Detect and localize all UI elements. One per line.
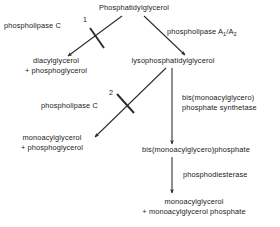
enzyme-phospholipase-a1-a2: phospholipase A1/A2 xyxy=(167,27,277,37)
pathway-diagram: Phosphatidylglycerol phospholipase C 1 p… xyxy=(0,0,280,227)
step-marker-1-label: 1 xyxy=(83,15,87,24)
node-phosphatidylglycerol: Phosphatidylglycerol xyxy=(74,3,194,13)
enzyme-phospholipase-a1-a2-prefix: phospholipase A xyxy=(167,27,223,36)
node-lysophosphatidylglycerol: lysophosphatidylglycerol xyxy=(108,56,238,66)
enzyme-bmp-synthetase: bis(monoacylglycero) phosphate synthetas… xyxy=(182,93,278,113)
enzyme-phospholipase-c-2-label: phospholipase C xyxy=(41,101,98,110)
step-marker-2-label: 2 xyxy=(109,88,113,97)
enzyme-phospholipase-c-1-label: phospholipase C xyxy=(4,21,61,30)
enzyme-phosphodiesterase: phosphodiesterase xyxy=(183,170,275,180)
node-phosphatidylglycerol-label: Phosphatidylglycerol xyxy=(99,3,169,12)
node-final-products-line1: monoacylglycerol xyxy=(112,197,276,207)
enzyme-phospholipase-a1-a2-separator: /A xyxy=(226,27,233,36)
enzyme-phospholipase-c-2: phospholipase C xyxy=(41,101,121,111)
node-monoacylglycerol-phosphoglycerol: monoacylglycerol + phosphoglycerol xyxy=(0,133,104,153)
node-final-products-line2: + monoacylglycerol phosphate xyxy=(112,207,276,217)
enzyme-phospholipase-a2-subscript: 2 xyxy=(234,31,237,37)
node-monoacylglycerol-phosphoglycerol-line1: monoacylglycerol xyxy=(0,133,104,143)
step-marker-2: 2 xyxy=(109,88,113,98)
enzyme-phospholipase-c-1: phospholipase C xyxy=(4,21,82,31)
node-diacylglycerol: diacylglycerol + phosphoglycerol xyxy=(2,56,110,76)
node-bis-monoacylglycerophosphate: bis(monoacylglycero)phosphate xyxy=(116,145,276,155)
node-final-products: monoacylglycerol + monoacylglycerol phos… xyxy=(112,197,276,217)
enzyme-bmp-synthetase-line2: phosphate synthetase xyxy=(182,103,278,113)
node-monoacylglycerol-phosphoglycerol-line2: + phosphoglycerol xyxy=(0,143,104,153)
step-marker-1: 1 xyxy=(83,15,87,25)
node-bis-monoacylglycerophosphate-label: bis(monoacylglycero)phosphate xyxy=(142,145,250,154)
enzyme-phospholipase-a1-subscript: 1 xyxy=(223,31,226,37)
enzyme-bmp-synthetase-line1: bis(monoacylglycero) xyxy=(182,93,278,103)
enzyme-phosphodiesterase-label: phosphodiesterase xyxy=(183,170,248,179)
node-diacylglycerol-line1: diacylglycerol xyxy=(2,56,110,66)
node-diacylglycerol-line2: + phosphoglycerol xyxy=(2,66,110,76)
node-lysophosphatidylglycerol-label: lysophosphatidylglycerol xyxy=(132,56,215,65)
